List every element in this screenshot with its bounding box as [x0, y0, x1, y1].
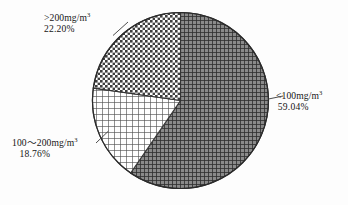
pie-slice-gt200 [93, 12, 180, 100]
slice-label-100-200-name: 100～200mg/m3 [12, 137, 78, 148]
slice-label-gt200-name: >200mg/m3 [44, 12, 91, 23]
slice-label-gt200: >200mg/m3 22.20% [44, 12, 91, 35]
superscript-three: 3 [87, 11, 90, 18]
slice-label-100-200-percent: 18.76% [12, 148, 78, 159]
slice-label-lt100-name: <100mg/m3 [276, 90, 322, 101]
slice-label-100-200: 100～200mg/m3 18.76% [12, 137, 78, 160]
superscript-three: 3 [74, 136, 77, 143]
slice-label-gt200-percent: 22.20% [44, 23, 91, 34]
slice-label-lt100: <100mg/m3 59.04% [276, 90, 322, 113]
pie-chart-figure: <100mg/m3 59.04% >200mg/m3 22.20% 100～20… [0, 0, 348, 205]
slice-label-lt100-percent: 59.04% [276, 101, 322, 112]
superscript-three: 3 [319, 89, 322, 96]
